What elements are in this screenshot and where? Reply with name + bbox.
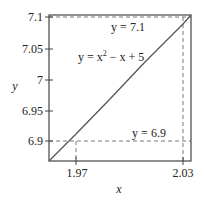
y-tick-label: 7.05 [22, 42, 43, 56]
curve-label-lhs: y = x [78, 50, 103, 64]
y-tick-label: 7 [37, 73, 43, 87]
annotation-upper-line: y = 7.1 [111, 20, 145, 34]
annotation-curve: y = x2 − x + 5 [78, 49, 144, 64]
y-tick-label: 6.9 [28, 134, 43, 148]
y-axis-label: y [11, 79, 18, 93]
x-tick-label: 2.03 [173, 166, 194, 180]
curve-line [49, 15, 191, 161]
x-axis-label: x [115, 182, 122, 196]
x-tick-label: 1.97 [67, 166, 88, 180]
y-tick-label: 7.1 [28, 10, 43, 24]
curve-label-rhs: − x + 5 [107, 50, 145, 64]
y-tick-label: 6.95 [22, 104, 43, 118]
chart: 7.1 7.05 7 6.95 6.9 1.97 2.03 x y y = 7.… [0, 0, 205, 202]
annotation-lower-line: y = 6.9 [132, 126, 166, 140]
